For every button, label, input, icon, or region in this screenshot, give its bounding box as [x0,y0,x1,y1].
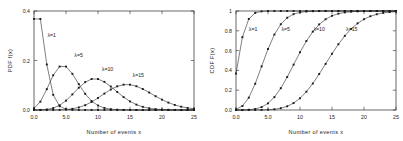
data-point-marker [350,11,352,13]
y-tick-label: 0.0 [23,107,30,113]
data-point-marker [280,87,282,89]
data-point-marker [331,10,333,12]
data-point-marker [187,107,189,109]
data-point-marker [161,99,163,101]
data-point-marker [148,109,150,111]
data-point-marker [187,109,189,111]
data-point-marker [344,35,346,37]
data-point-marker [235,73,237,75]
x-tick-label: 15 [329,114,335,120]
data-point-marker [84,109,86,111]
data-point-marker [293,102,295,104]
data-point-marker [129,84,131,86]
data-point-marker [84,104,86,106]
data-point-marker [267,109,269,111]
series-annotation-2: λ=10 [102,66,114,72]
data-point-marker [293,10,295,12]
data-point-marker [142,106,144,108]
cdf-axes: 0.05.0101520250.00.20.40.60.81λ=1λ=5λ=10… [202,0,403,141]
data-point-marker [65,109,67,111]
x-axis-title: Number of events x [289,129,344,135]
data-point-marker [305,11,307,13]
data-point-marker [103,93,105,95]
data-point-marker [337,10,339,12]
data-point-marker [97,105,99,107]
data-point-marker [248,97,250,99]
data-point-marker [59,109,61,111]
series-annotation-2: λ=10 [313,26,325,32]
x-tick-label: 20 [361,114,367,120]
y-tick-label: 0.8 [225,28,232,34]
data-point-marker [97,97,99,99]
data-point-marker [325,63,327,65]
data-point-marker [331,53,333,55]
x-tick-label: 5.0 [264,114,271,120]
data-point-marker [261,65,263,67]
data-point-marker [337,13,339,15]
data-point-marker [52,107,54,109]
data-point-marker [363,10,365,12]
series-annotation-3: λ=15 [346,26,358,32]
x-tick-label: 25 [191,114,197,120]
x-tick-label: 20 [159,114,165,120]
data-point-marker [161,109,163,111]
data-point-marker [382,10,384,12]
data-point-marker [261,10,263,12]
data-point-marker [254,83,256,85]
data-point-marker [248,109,250,111]
data-point-marker [193,108,195,110]
y-tick-label: 0.2 [23,58,30,64]
data-point-marker [135,109,137,111]
data-point-marker [91,101,93,103]
data-point-marker [135,104,137,106]
data-point-marker [110,108,112,110]
data-point-marker [123,96,125,98]
data-point-marker [325,18,327,20]
series-annotation-0: λ=1 [249,26,258,32]
data-point-marker [71,108,73,110]
data-point-marker [65,100,67,102]
x-axis-title: Number of events x [87,129,142,135]
data-point-marker [357,10,359,12]
data-point-marker [174,104,176,106]
data-point-marker [382,12,384,14]
data-point-marker [46,109,48,111]
series-pdf-2: λ=10 [33,66,195,111]
data-point-marker [369,15,371,17]
data-point-marker [280,107,282,109]
data-point-marker [110,89,112,91]
data-point-marker [71,93,73,95]
data-point-marker [325,10,327,12]
data-point-marker [110,86,112,88]
data-point-marker [52,74,54,76]
data-point-marker [123,109,125,111]
data-point-marker [318,10,320,12]
data-point-marker [305,91,307,93]
data-point-marker [376,13,378,15]
data-point-marker [273,108,275,110]
data-point-marker [261,109,263,111]
data-point-marker [267,102,269,104]
x-tick-label: 0.0 [232,114,239,120]
series-pdf-3: λ=15 [33,72,195,111]
data-point-marker [344,11,346,13]
data-point-marker [103,109,105,111]
data-point-marker [286,17,288,19]
data-point-marker [91,109,93,111]
data-point-marker [97,109,99,111]
data-point-marker [78,83,80,85]
data-point-marker [235,109,237,111]
y-axis-title: CDF F(x) [209,48,215,74]
data-point-marker [116,85,118,87]
data-point-marker [59,66,61,68]
data-point-marker [39,109,41,111]
data-point-marker [142,109,144,111]
series-cdf-0: λ=1 [235,10,397,74]
data-point-marker [78,109,80,111]
data-point-marker [78,87,80,89]
data-point-marker [286,10,288,12]
x-tick-label: 25 [393,114,399,120]
series-annotation-0: λ=1 [47,32,56,38]
data-point-marker [337,43,339,45]
data-point-marker [267,10,269,12]
